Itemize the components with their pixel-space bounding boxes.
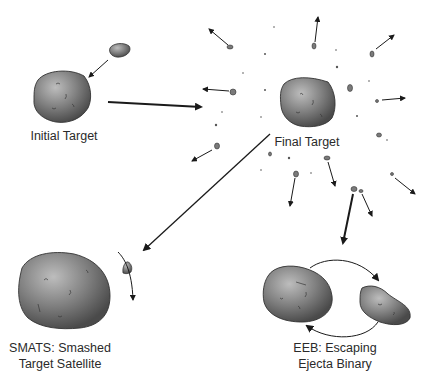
initial-target-label: Initial Target [30, 129, 98, 143]
final-target-label: Final Target [274, 135, 340, 149]
initial-target-asteroid [34, 71, 91, 122]
eeb-orbit-arrow-bottom [307, 322, 378, 337]
eeb-formation-arrow [343, 194, 353, 243]
smats-asteroid [19, 253, 110, 329]
smats-label-line1: SMATS: Smashed [9, 341, 111, 355]
satellite-orbit-arrow [118, 252, 133, 300]
eeb-secondary-asteroid [360, 286, 410, 325]
eeb-label-line2: Ejecta Binary [298, 357, 372, 371]
eeb-label-line1: EEB: Escaping [293, 341, 376, 355]
evolution-arrow [108, 102, 201, 107]
smats-formation-arrow [144, 134, 270, 250]
smats-label-line2: Target Satellite [19, 357, 102, 371]
final-target-asteroid [280, 78, 335, 127]
impact-arrow [89, 60, 108, 77]
impactor-asteroid [110, 44, 130, 58]
eeb-primary-asteroid [263, 266, 332, 322]
asteroid-diagram: Initial Target Final Target [0, 0, 431, 386]
